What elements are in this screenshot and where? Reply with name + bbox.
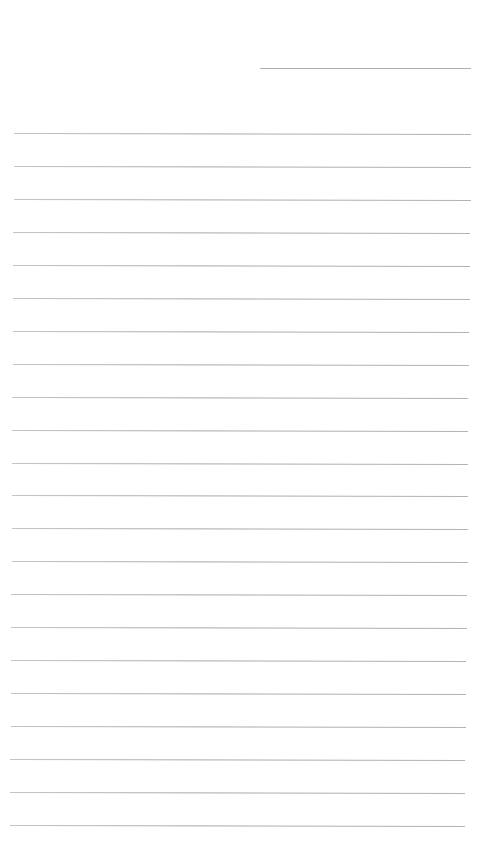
header-line bbox=[260, 68, 471, 69]
ruled-line bbox=[13, 232, 470, 234]
ruled-line bbox=[11, 726, 466, 728]
ruled-line bbox=[14, 199, 471, 201]
ruled-line bbox=[13, 298, 470, 300]
ruled-line bbox=[11, 594, 467, 596]
ruled-line bbox=[12, 463, 468, 465]
ruled-line bbox=[12, 528, 468, 530]
ruled-line bbox=[11, 660, 466, 662]
ruled-line bbox=[10, 825, 465, 827]
ruled-line bbox=[13, 364, 469, 366]
ruled-line bbox=[12, 430, 468, 432]
ruled-line bbox=[14, 166, 471, 168]
ruled-line bbox=[12, 495, 468, 497]
ruled-line bbox=[13, 331, 469, 333]
ruled-line bbox=[12, 561, 468, 563]
lined-paper-page bbox=[0, 0, 491, 859]
ruled-line bbox=[14, 133, 471, 135]
ruled-line bbox=[10, 759, 465, 761]
ruled-line bbox=[11, 693, 466, 695]
ruled-line bbox=[10, 792, 465, 794]
ruled-line bbox=[13, 265, 470, 267]
ruled-line bbox=[12, 397, 468, 399]
ruled-line bbox=[11, 627, 467, 629]
